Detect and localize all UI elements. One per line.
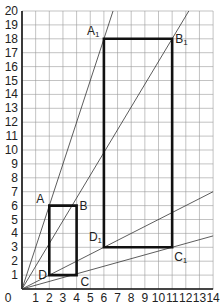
origin-label: 0 <box>5 291 12 305</box>
y-tick-label: 13 <box>5 101 19 115</box>
y-tick-label: 15 <box>5 74 19 88</box>
y-tick-label: 19 <box>5 18 19 32</box>
x-tick-label: 2 <box>46 291 53 305</box>
x-tick-label: 10 <box>152 291 166 305</box>
y-tick-label: 16 <box>5 60 19 74</box>
y-tick-label: 17 <box>5 46 19 60</box>
vertex-label-a: A <box>36 192 44 206</box>
vertex-label-b: B <box>80 199 88 213</box>
y-tick-label: 2 <box>11 254 18 268</box>
y-tick-label: 10 <box>5 143 19 157</box>
enlargement-diagram: 1234567891011121314123456789101112131415… <box>0 0 223 306</box>
x-tick-label: 9 <box>142 291 149 305</box>
x-tick-label: 11 <box>166 291 179 305</box>
x-tick-label: 8 <box>128 291 135 305</box>
x-tick-label: 5 <box>87 291 94 305</box>
x-tick-label: 14 <box>206 291 220 305</box>
x-tick-label: 3 <box>60 291 67 305</box>
y-tick-label: 1 <box>11 268 18 282</box>
y-tick-label: 8 <box>11 171 18 185</box>
y-tick-label: 12 <box>5 115 19 129</box>
vertex-label-c: C <box>81 275 90 289</box>
x-tick-label: 12 <box>179 291 193 305</box>
vertex-label-d: D <box>38 268 47 282</box>
y-tick-label: 5 <box>11 213 18 227</box>
y-tick-label: 4 <box>11 226 18 240</box>
vertex-label-b1: B1 <box>175 32 188 47</box>
y-tick-label: 18 <box>5 32 19 46</box>
y-tick-label: 7 <box>11 185 18 199</box>
x-tick-label: 13 <box>193 291 207 305</box>
y-tick-label: 20 <box>5 4 19 18</box>
vertex-label-a1: A1 <box>87 24 100 39</box>
y-tick-label: 11 <box>6 129 19 143</box>
rectangle-a1b1c1d1 <box>104 39 172 248</box>
x-tick-label: 6 <box>101 291 108 305</box>
y-tick-label: 3 <box>11 240 18 254</box>
y-tick-label: 9 <box>11 157 18 171</box>
x-tick-label: 7 <box>114 291 121 305</box>
y-tick-label: 14 <box>5 87 19 101</box>
vertex-label-d1: D1 <box>89 230 103 245</box>
y-tick-label: 6 <box>11 199 18 213</box>
x-tick-label: 4 <box>73 291 80 305</box>
x-tick-label: 1 <box>32 291 39 305</box>
